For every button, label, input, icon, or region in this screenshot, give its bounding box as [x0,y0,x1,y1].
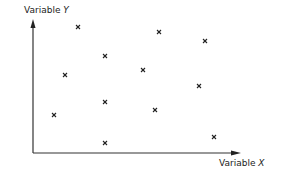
x-marker-icon [157,30,161,34]
x-axis-arrowhead-icon [231,151,241,156]
x-marker-icon [203,39,207,43]
x-marker-icon [141,68,145,72]
x-marker-icon [103,54,107,58]
x-axis-label: Variable X [219,158,264,168]
y-axis [31,19,36,153]
x-marker-icon [103,141,107,145]
x-axis [33,151,241,156]
x-marker-icon [76,25,80,29]
x-marker-icon [212,135,216,139]
x-marker-icon [197,84,201,88]
x-marker-icon [103,100,107,104]
scatter-plot [0,0,283,177]
y-axis-arrowhead-icon [31,19,36,28]
y-axis-label: Variable Y [24,5,69,15]
data-points [52,25,216,145]
x-marker-icon [63,73,67,77]
x-marker-icon [153,108,157,112]
x-marker-icon [52,113,56,117]
